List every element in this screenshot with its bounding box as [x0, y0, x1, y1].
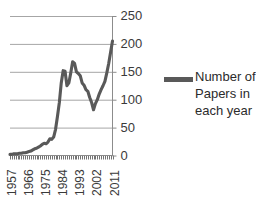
x-axis-tick-label: 1957 [6, 169, 18, 196]
legend-label: Number of Papers in each year [195, 68, 256, 119]
x-axis-tick-label: 1993 [74, 169, 86, 196]
legend-color-swatch [164, 77, 193, 82]
x-axis-tick-label: 2011 [109, 170, 121, 196]
y-axis-tick-label: 250 [121, 9, 143, 22]
gridlines [10, 17, 113, 129]
x-axis-tick-marks [11, 156, 114, 160]
x-axis-tick-label: 2002 [91, 169, 103, 196]
x-axis-tick-label: 1975 [40, 169, 52, 196]
data-series-line [10, 41, 113, 154]
y-axis-tick-label: 200 [121, 37, 143, 50]
y-axis-tick-marks [113, 17, 117, 157]
y-axis-tick-label: 100 [121, 93, 143, 106]
papers-per-year-chart: 250200150100500 195719661975198419932002… [0, 0, 256, 201]
y-axis-tick-label: 150 [121, 65, 143, 78]
x-axis-tick-label: 1984 [57, 169, 69, 196]
y-axis-tick-label: 0 [121, 149, 128, 162]
y-axis-tick-label: 50 [121, 121, 135, 134]
x-axis-tick-label: 1966 [23, 169, 35, 196]
